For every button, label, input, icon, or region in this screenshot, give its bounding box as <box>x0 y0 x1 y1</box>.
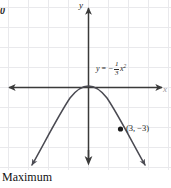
equation-exponent: 2 <box>123 64 126 70</box>
equation-lhs: y <box>96 65 100 73</box>
equation-equals: = <box>101 65 106 73</box>
point-coordinate-label: (3, −3) <box>126 123 149 133</box>
figure-caption: Maximum <box>2 170 52 185</box>
equation-fraction: 1 3 <box>114 61 120 77</box>
equation-sign: − <box>108 65 113 73</box>
plot-svg <box>0 0 171 170</box>
graph-area: y x 0 y = − 1 3 x 2 (3, −3) <box>0 0 171 170</box>
y-axis-label: y <box>79 1 83 10</box>
fraction-denominator: 3 <box>114 70 120 77</box>
equation-label: y = − 1 3 x 2 <box>96 61 126 77</box>
figure-screenshot: y x 0 y = − 1 3 x 2 (3, −3) Maximum <box>0 0 171 188</box>
fraction-numerator: 1 <box>114 61 120 68</box>
x-axis-label: x <box>163 85 167 94</box>
marked-point <box>118 126 123 131</box>
